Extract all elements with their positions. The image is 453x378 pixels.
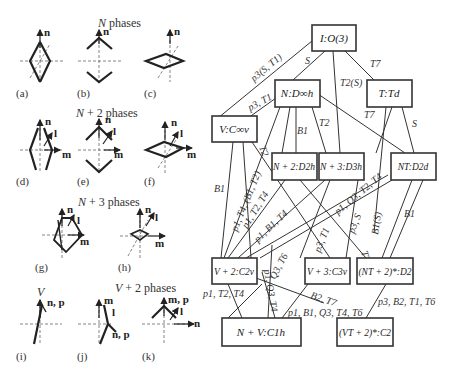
edge-label-n-n3: T2: [319, 117, 330, 128]
edge-label-i-n3: T2(S): [340, 77, 363, 89]
edge-label-nt-v3b: p3, S: [345, 212, 363, 236]
panel-e: n l m (e): [77, 113, 123, 188]
axis-mp-label: m, p: [168, 293, 189, 305]
axis-np-label: n, p: [112, 328, 130, 340]
axis-n-label: n: [105, 113, 111, 125]
node-nt-d2d: NT:D2d: [391, 153, 436, 180]
caption-g: (g): [35, 261, 48, 274]
edge-label-v2-nv: p1, T2, T4: [202, 288, 244, 299]
panel-a: n (a): [16, 26, 64, 100]
svg-text:NT:D2d: NT:D2d: [397, 162, 429, 172]
caption-a: (a): [16, 87, 29, 100]
caption-d: (d): [16, 175, 29, 188]
panel-h: n l m (h): [118, 203, 165, 274]
panel-g: n l m (g): [35, 203, 89, 274]
caption-h: (h): [118, 261, 131, 274]
axis-m-label: m: [155, 237, 164, 249]
svg-text:V:C∞v: V:C∞v: [219, 123, 249, 135]
svg-text:T:Td: T:Td: [379, 87, 400, 99]
node-i-o3: I:O(3): [312, 25, 356, 51]
panel-d: n l m (d): [16, 115, 71, 188]
node-n3-d3h: N + 3:D3h: [319, 153, 364, 180]
axis-l-label: l: [77, 214, 80, 226]
caption-j: (j): [77, 350, 88, 363]
caption-b: (b): [77, 87, 90, 100]
node-t-td: T:Td: [367, 80, 412, 107]
axis-m-label: m: [114, 148, 123, 160]
svg-text:N + V:C1h: N + V:C1h: [236, 326, 286, 338]
edge-label-nt2-vt2: p3, B2, T1, T6: [377, 296, 435, 307]
panel-j: m l n, p (j): [77, 294, 130, 363]
axis-l-label: l: [113, 125, 116, 137]
node-nt2-d2: (NT + 2)*:D2: [357, 258, 413, 284]
node-n2-d2h: N + 2:D2h: [272, 153, 317, 180]
edge-label-t-nt: S: [412, 118, 417, 129]
edge-label-n-n2: B1: [297, 125, 308, 136]
axis-l-label: l: [54, 127, 57, 139]
node-n-dinfh: N:D∞h: [275, 80, 320, 107]
edge-label-v2-vt2: B2, T7: [309, 289, 339, 308]
node-v3-c3v: V + 3:C3v: [305, 258, 350, 284]
edge-label-i-t: T7: [370, 58, 382, 69]
axis-n-label: n: [45, 115, 51, 127]
node-vt2-c2: (VT + 2)*:C2: [337, 318, 393, 346]
caption-k: (k): [142, 350, 155, 363]
axis-m-label: m: [187, 148, 196, 160]
svg-text:V + 3:C3v: V + 3:C3v: [307, 267, 348, 277]
node-v2-c2v: V + 2:C2v: [212, 258, 257, 284]
axis-m-label: m: [104, 294, 113, 306]
svg-text:I:O(3): I:O(3): [319, 32, 348, 45]
axis-l-label: l: [112, 306, 115, 318]
svg-text:N + 2:D2h: N + 2:D2h: [272, 162, 315, 172]
edge-label-t-nt2: B1: [404, 208, 415, 219]
edge-label-i-n: S: [305, 55, 310, 66]
svg-text:(NT + 2)*:D2: (NT + 2)*:D2: [358, 267, 411, 278]
heading-v: V: [37, 285, 46, 299]
edge-label-v3-nv: p1, B1, Q3, T4, T6: [287, 307, 362, 318]
axis-m-label: m: [80, 235, 89, 247]
edge-label-v-t2: T2: [257, 144, 271, 158]
heading-n3-phases: N + 3 phases: [77, 195, 140, 209]
figure-canvas: N phases n (a) n (b) n (c) N + 2 phases: [0, 0, 453, 378]
axis-n-label: n: [145, 203, 151, 215]
axis-n-label: n: [194, 317, 200, 329]
axis-n-label: n: [44, 26, 50, 38]
edge-label-n3-v3: p3, T1: [311, 226, 331, 255]
svg-text:N + 3:D3h: N + 3:D3h: [319, 162, 362, 172]
edge-label-v-v2: B1: [214, 183, 225, 194]
svg-text:(VT + 2)*:C2: (VT + 2)*:C2: [339, 328, 391, 339]
axis-l-label: l: [155, 211, 158, 223]
axis-np-label: n, p: [47, 296, 65, 308]
axis-n-label: n: [103, 25, 109, 37]
svg-text:V + 2:C2v: V + 2:C2v: [214, 267, 255, 277]
axis-l-label: l: [180, 127, 183, 139]
node-nv-c1h: N + V:C1h: [222, 318, 301, 346]
axis-m-label: m: [62, 148, 71, 160]
caption-c: (c): [144, 87, 157, 100]
panel-b: n (b): [77, 25, 122, 100]
axis-l-label: l: [180, 305, 183, 317]
axis-n-label: n: [174, 25, 180, 37]
caption-e: (e): [77, 175, 90, 188]
panel-k: m, p l n (k): [142, 293, 200, 363]
panel-f: n l m (f): [144, 116, 196, 188]
axis-n-label: n: [171, 116, 177, 128]
caption-i: (i): [16, 350, 27, 363]
panel-i: n, p (i): [16, 296, 65, 363]
panel-c: n (c): [144, 25, 183, 100]
axis-n-label: n: [67, 203, 73, 215]
edge-label-nt-nt2: B1(S): [369, 211, 384, 236]
node-v-cinfv: V:C∞v: [212, 116, 257, 142]
caption-f: (f): [144, 175, 155, 188]
svg-text:N:D∞h: N:D∞h: [280, 87, 314, 99]
edge-label-n-nt: T7: [364, 109, 376, 120]
